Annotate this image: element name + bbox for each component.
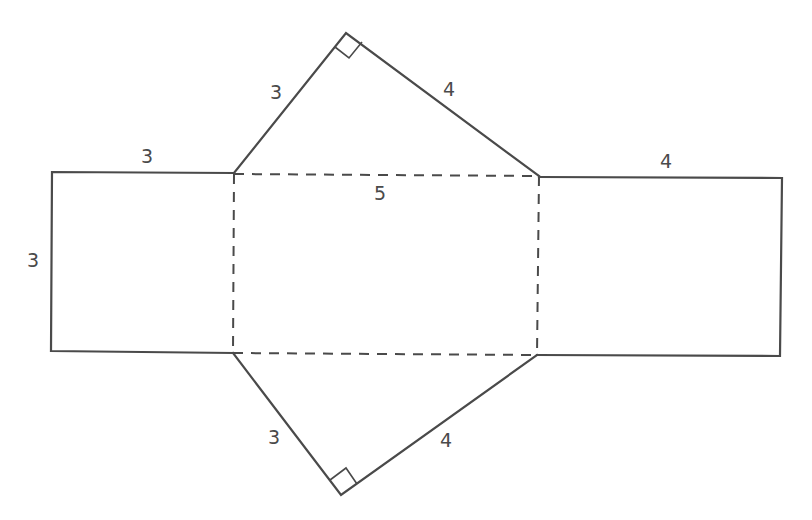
fold-line-top bbox=[234, 174, 539, 176]
label-center-top: 5 bbox=[374, 182, 386, 204]
label-left-square-side: 3 bbox=[27, 249, 39, 271]
fold-line-left bbox=[233, 174, 234, 353]
label-left-square-top: 3 bbox=[141, 145, 153, 167]
bottom-right-angle-marker bbox=[330, 468, 357, 484]
right-rectangle-face bbox=[537, 177, 782, 356]
left-square-face bbox=[51, 172, 234, 353]
label-bottom-triangle-left: 3 bbox=[268, 426, 280, 448]
top-right-angle-marker bbox=[335, 42, 362, 58]
label-right-rect-top: 4 bbox=[660, 150, 672, 172]
prism-net-diagram: 3 3 3 4 5 4 3 4 bbox=[0, 0, 812, 520]
label-bottom-triangle-right: 4 bbox=[440, 429, 452, 451]
fold-line-right bbox=[537, 176, 539, 355]
bottom-triangle-face bbox=[233, 353, 537, 495]
fold-line-bottom bbox=[233, 353, 537, 355]
top-triangle-face bbox=[234, 33, 539, 176]
label-top-triangle-right: 4 bbox=[443, 78, 455, 100]
label-top-triangle-left: 3 bbox=[270, 81, 282, 103]
